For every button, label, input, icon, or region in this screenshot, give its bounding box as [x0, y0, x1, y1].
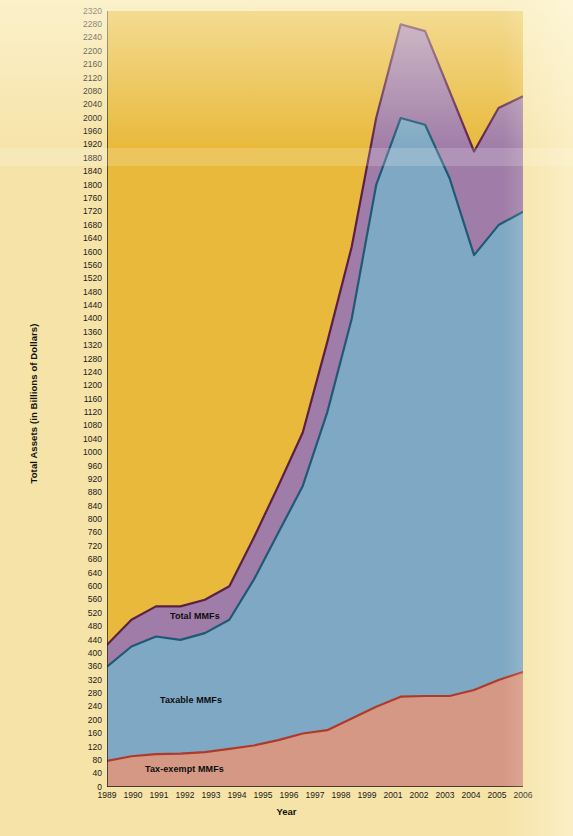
y-axis-tick-label: 2000 [62, 114, 102, 123]
y-axis-tick-label: 320 [62, 676, 102, 685]
y-axis-tick-label: 2280 [62, 20, 102, 29]
y-axis-tick-label: 960 [62, 462, 102, 471]
y-axis-tick-label: 120 [62, 743, 102, 752]
y-axis-tick-label: 1960 [62, 127, 102, 136]
y-axis-tick-label: 1080 [62, 421, 102, 430]
y-axis-tick-label: 2240 [62, 33, 102, 42]
y-axis-tick-label: 360 [62, 662, 102, 671]
y-axis-tick-label: 1920 [62, 140, 102, 149]
money-market-fund-assets-chart: 0408012016020024028032036040044048052056… [0, 0, 573, 836]
y-axis-tick-label: 1040 [62, 435, 102, 444]
y-axis-tick-label: 2320 [62, 7, 102, 16]
y-axis-tick-label: 160 [62, 729, 102, 738]
x-axis-tick-label: 2006 [503, 790, 543, 800]
y-axis-tick-label: 1640 [62, 234, 102, 243]
y-axis-tick-label: 720 [62, 542, 102, 551]
y-axis-tick-label: 1880 [62, 154, 102, 163]
y-axis-title: Total Assets (in Billions of Dollars) [28, 309, 39, 499]
y-axis-tick-label: 1360 [62, 328, 102, 337]
y-axis-tick-label: 760 [62, 528, 102, 537]
y-axis-tick-label: 1240 [62, 368, 102, 377]
y-axis-tick-label: 400 [62, 649, 102, 658]
plot-svg [107, 11, 523, 787]
y-axis-tick-label: 1400 [62, 314, 102, 323]
y-axis-tick-label: 1600 [62, 248, 102, 257]
y-axis-tick-label: 1320 [62, 341, 102, 350]
series-label-total-mmfs: Total MMFs [170, 611, 220, 621]
y-axis-tick-label: 240 [62, 702, 102, 711]
y-axis-tick-label: 40 [62, 769, 102, 778]
y-axis-tick-label: 1200 [62, 381, 102, 390]
series-label-tax-exempt-mmfs: Tax-exempt MMFs [145, 764, 224, 774]
y-axis-tick-label: 880 [62, 488, 102, 497]
y-axis-tick-label: 440 [62, 636, 102, 645]
y-axis-tick-label: 1800 [62, 181, 102, 190]
page-canvas: 0408012016020024028032036040044048052056… [0, 0, 573, 836]
y-axis-tick-label: 1160 [62, 395, 102, 404]
y-axis-tick-label: 1440 [62, 301, 102, 310]
y-axis-tick-label: 1840 [62, 167, 102, 176]
y-axis-tick-label: 1720 [62, 207, 102, 216]
y-axis-tick-label: 2200 [62, 47, 102, 56]
plot-area: Total MMFs Taxable MMFs Tax-exempt MMFs [107, 11, 523, 787]
y-axis-tick-label: 280 [62, 689, 102, 698]
y-axis-tick-label: 480 [62, 622, 102, 631]
y-axis-tick-label: 1000 [62, 448, 102, 457]
y-axis-tick-label: 80 [62, 756, 102, 765]
y-axis-tick-label: 600 [62, 582, 102, 591]
y-axis-tick-label: 2080 [62, 87, 102, 96]
y-axis-tick-label: 200 [62, 716, 102, 725]
y-axis-tick-label: 680 [62, 555, 102, 564]
y-axis-tick-label: 560 [62, 595, 102, 604]
series-label-taxable-mmfs: Taxable MMFs [160, 695, 222, 705]
y-axis-tick-labels: 0408012016020024028032036040044048052056… [58, 0, 102, 836]
y-axis-tick-label: 640 [62, 569, 102, 578]
y-axis-tick-label: 520 [62, 609, 102, 618]
x-axis-tick-labels: 1989199019911992199319941995199619971998… [0, 790, 573, 804]
y-axis-tick-label: 1480 [62, 288, 102, 297]
y-axis-tick-label: 800 [62, 515, 102, 524]
x-axis-title: Year [0, 806, 573, 817]
y-axis-tick-label: 2040 [62, 100, 102, 109]
y-axis-tick-label: 1560 [62, 261, 102, 270]
y-axis-tick-label: 2160 [62, 60, 102, 69]
y-axis-tick-label: 1120 [62, 408, 102, 417]
y-axis-tick-label: 840 [62, 502, 102, 511]
y-axis-tick-label: 1680 [62, 221, 102, 230]
y-axis-tick-label: 2120 [62, 74, 102, 83]
y-axis-tick-label: 1760 [62, 194, 102, 203]
y-axis-tick-label: 1280 [62, 355, 102, 364]
y-axis-tick-label: 1520 [62, 274, 102, 283]
y-axis-tick-label: 920 [62, 475, 102, 484]
